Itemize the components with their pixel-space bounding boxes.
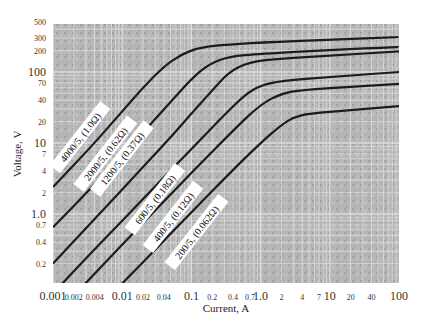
x-tick-label: 40 xyxy=(367,293,375,302)
chart: 4000/5, (1.0Ω)2000/5, (0.62Ω)1200/5, (0.… xyxy=(0,0,423,329)
x-tick-label: 7 xyxy=(317,293,321,302)
y-tick-label: 20 xyxy=(38,118,46,127)
y-tick-label: 70 xyxy=(38,79,46,88)
y-tick-label: 7 xyxy=(42,150,46,159)
x-tick-label: 2 xyxy=(279,293,283,302)
x-tick-label: 0.002 xyxy=(65,293,83,302)
y-tick-label: 300 xyxy=(34,34,46,43)
y-tick-label: 2 xyxy=(42,189,46,198)
x-tick-label: 0.001 xyxy=(40,289,67,303)
x-tick-label: 0.2 xyxy=(207,293,217,302)
y-axis-ticks: 500300200100704020107421.00.70.40.2 xyxy=(28,18,46,268)
y-axis-title: Voltage, V xyxy=(11,131,23,178)
x-axis-title: Current, A xyxy=(203,302,249,314)
x-tick-label: 0.004 xyxy=(86,293,104,302)
y-tick-label: 500 xyxy=(34,18,46,27)
x-tick-label: 20 xyxy=(347,293,355,302)
y-tick-label: 1.0 xyxy=(31,207,46,221)
x-tick-label: 0.04 xyxy=(157,293,171,302)
y-tick-label: 200 xyxy=(34,47,46,56)
y-tick-label: 10 xyxy=(34,136,46,150)
y-tick-label: 0.2 xyxy=(36,260,46,269)
x-tick-label: 4 xyxy=(300,293,304,302)
y-tick-label: 4 xyxy=(42,167,46,176)
x-axis-ticks: 0.0010.0020.0040.010.020.040.10.20.40.71… xyxy=(40,289,409,303)
y-tick-label: 0.4 xyxy=(36,238,46,247)
y-tick-label: 100 xyxy=(28,65,46,79)
y-tick-label: 40 xyxy=(38,96,46,105)
x-tick-label: 0.4 xyxy=(228,293,238,302)
x-tick-label: 10 xyxy=(324,289,336,303)
x-tick-label: 0.02 xyxy=(136,293,150,302)
x-tick-label: 1.0 xyxy=(253,289,268,303)
x-tick-label: 100 xyxy=(390,289,408,303)
y-tick-label: 0.7 xyxy=(36,221,46,230)
x-tick-label: 0.01 xyxy=(112,289,133,303)
x-tick-label: 0.1 xyxy=(184,289,199,303)
